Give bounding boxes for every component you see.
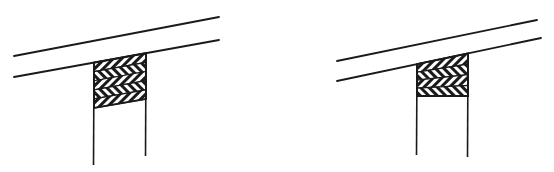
post-left-edge [94, 63, 95, 165]
beam-post-diagram [0, 0, 554, 172]
figure-canvas [0, 0, 554, 172]
panel-right [337, 20, 541, 157]
beam-top-edge [14, 17, 219, 56]
post-right-edge [468, 53, 469, 157]
post-right-edge [146, 53, 147, 156]
panel-left [14, 17, 219, 165]
post-left-edge [417, 64, 418, 155]
beam-top-edge [337, 20, 537, 61]
